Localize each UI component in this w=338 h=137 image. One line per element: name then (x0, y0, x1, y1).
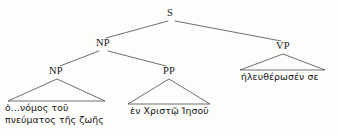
syntax-tree-diagram: S NP VP NP PP ὁ...νόμος τοῦ πνεύματος τῆ… (0, 0, 338, 137)
leaf-pp: ἐν Χριστῷ Ἰησοῦ (130, 105, 209, 117)
leaf-np-lower-line2: πνεύματος τῆς ζωῆς (5, 114, 104, 126)
np-lower-triangle (8, 79, 105, 101)
branch-s-to-np (106, 21, 168, 38)
node-label-pp: PP (163, 66, 175, 77)
leaf-vp-line1: ἠλευθέρωσέν σε (241, 71, 319, 83)
branch-s-to-vp (175, 21, 281, 41)
node-label-vp: VP (276, 41, 290, 52)
leaf-np-lower-line1: ὁ...νόμος τοῦ (5, 102, 104, 114)
node-label-np-lower: NP (49, 66, 63, 77)
vp-triangle (240, 54, 325, 70)
branch-np-to-pp (108, 51, 166, 66)
node-label-np-upper: NP (96, 38, 110, 49)
leaf-vp: ἠλευθέρωσέν σε (241, 71, 319, 83)
leaf-pp-line1: ἐν Χριστῷ Ἰησοῦ (130, 105, 209, 117)
branch-np-to-np (60, 51, 99, 66)
leaf-np-lower: ὁ...νόμος τοῦ πνεύματος τῆς ζωῆς (5, 102, 104, 126)
node-label-s: S (167, 8, 173, 19)
pp-triangle (128, 79, 210, 104)
